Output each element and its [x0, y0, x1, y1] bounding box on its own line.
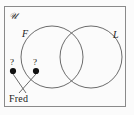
leader-line-right — [19, 74, 36, 93]
leader-line-left — [13, 74, 26, 93]
element-marker-left — [10, 68, 16, 74]
universe-label: 𝒰 — [9, 12, 17, 21]
element-marker-right — [33, 68, 39, 74]
set-label-f: F — [22, 29, 28, 39]
universe-rectangle — [5, 7, 126, 107]
venn-diagram-figure: 𝒰 F L ? ? Fred — [0, 0, 134, 115]
set-label-l: L — [113, 30, 119, 40]
question-mark-right: ? — [33, 58, 37, 67]
set-circle-f — [21, 26, 83, 88]
question-mark-left: ? — [10, 58, 14, 67]
element-name-label: Fred — [9, 94, 28, 104]
